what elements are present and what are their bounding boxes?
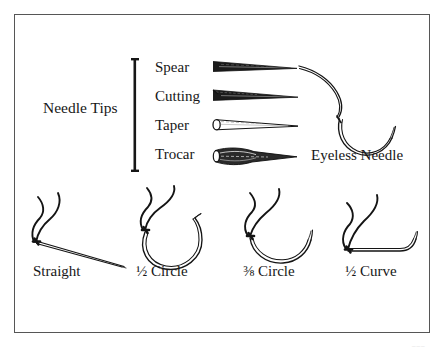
tip-label-spear: Spear xyxy=(155,60,189,75)
page-edge-artifact: ___ xyxy=(412,341,426,348)
needle-tips-group-label: Needle Tips xyxy=(43,100,118,116)
tip-label-taper: Taper xyxy=(155,118,189,133)
tip-label-trocar: Trocar xyxy=(155,147,194,162)
plate-frame-border xyxy=(14,14,430,333)
shape-caption-straight: Straight xyxy=(33,264,81,279)
needle-types-figure: Needle Tips Spear Cutting Taper Trocar E… xyxy=(0,0,447,353)
tip-label-cutting: Cutting xyxy=(155,89,200,104)
shape-caption-three-eighths-circle: ⅜ Circle xyxy=(243,264,295,279)
shape-caption-half-curve: ½ Curve xyxy=(345,264,397,279)
shape-caption-half-circle: ½ Circle xyxy=(136,264,188,279)
eyeless-needle-label: Eyeless Needle xyxy=(311,148,403,163)
